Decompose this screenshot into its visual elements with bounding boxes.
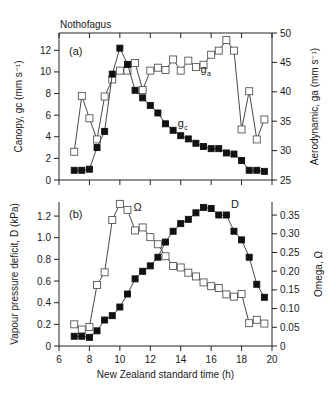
marker-g_a [208, 51, 215, 58]
marker-g_c [79, 167, 85, 173]
marker-Omega [192, 273, 199, 280]
series-label-sub-g_a: a [207, 70, 211, 77]
marker-g_a [101, 93, 108, 100]
marker-Omega [246, 320, 253, 327]
marker-Omega [109, 216, 116, 223]
marker-Omega [200, 279, 207, 286]
series-label-sub-g_c: c [184, 124, 188, 131]
marker-D [216, 212, 222, 218]
marker-Omega [154, 241, 161, 248]
marker-g_c [147, 102, 153, 108]
y-tick-label-right: 0.10 [280, 303, 300, 314]
y-axis-label-right: Omega, Ω [313, 251, 324, 297]
marker-g_c [140, 95, 146, 101]
panel-label: (a) [69, 45, 82, 57]
marker-g_a [253, 136, 260, 143]
marker-g_a [154, 64, 161, 71]
marker-D [124, 291, 130, 297]
marker-Omega [101, 269, 108, 276]
marker-g_a [223, 37, 230, 44]
marker-Omega [94, 282, 101, 289]
marker-g_c [86, 166, 92, 172]
x-tick-label: 12 [145, 354, 157, 365]
marker-Omega [253, 316, 260, 323]
marker-g_c [208, 146, 214, 152]
marker-D [246, 254, 252, 260]
marker-Omega [177, 264, 184, 271]
marker-Omega [124, 206, 131, 213]
marker-Omega [71, 321, 78, 328]
marker-D [178, 221, 184, 227]
marker-g_a [170, 56, 177, 63]
marker-D [193, 210, 199, 216]
marker-g_c [155, 110, 161, 116]
marker-Omega [86, 323, 93, 330]
x-tick-label: 14 [175, 354, 187, 365]
marker-Omega [132, 227, 139, 234]
marker-D [147, 263, 153, 269]
marker-Omega [185, 269, 192, 276]
marker-D [155, 254, 161, 260]
marker-D [132, 276, 138, 282]
marker-D [94, 328, 100, 334]
y-tick-label-left: 4 [45, 131, 51, 142]
y-tick-label-left: 12 [40, 45, 52, 56]
y-axis-label-left: Vapour pressure deficit, D (kPa) [9, 203, 20, 345]
series-label-g_c: g [178, 117, 184, 129]
figure-title: Nothofagus [60, 19, 111, 30]
y-tick-label-left: 0.4 [37, 297, 51, 308]
series-label-Omega: Ω [134, 201, 142, 213]
series-label-D: D [231, 198, 239, 210]
marker-Omega [208, 283, 215, 290]
marker-g_c [132, 87, 138, 93]
marker-g_a [132, 59, 139, 66]
marker-g_c [231, 151, 237, 157]
marker-g_a [185, 57, 192, 64]
marker-Omega [238, 291, 245, 298]
marker-g_a [230, 47, 237, 54]
marker-g_c [193, 140, 199, 146]
marker-D [109, 313, 115, 319]
x-tick-label: 20 [266, 354, 278, 365]
marker-D [79, 333, 85, 339]
marker-g_c [124, 61, 130, 67]
marker-g_c [223, 150, 229, 156]
marker-g_a [246, 88, 253, 95]
y-tick-label-right: 0 [280, 341, 286, 352]
marker-g_c [178, 133, 184, 139]
marker-Omega [230, 293, 237, 300]
marker-g_c [254, 167, 260, 173]
marker-g_c [163, 121, 169, 127]
marker-g_c [216, 146, 222, 152]
y-tick-label-left: 2 [45, 153, 51, 164]
marker-Omega [147, 234, 154, 241]
marker-D [261, 294, 267, 300]
x-tick-label: 6 [56, 354, 62, 365]
marker-D [170, 228, 176, 234]
y-tick-label-left: 0 [45, 341, 51, 352]
marker-g_a [86, 115, 93, 122]
panel-b-vpd-omega: 6810121416182000.20.40.60.81.01.200.050.… [9, 198, 324, 380]
y-tick-label-left: 0 [45, 175, 51, 186]
marker-D [71, 333, 77, 339]
marker-g_c [109, 71, 115, 77]
y-tick-label-left: 0.2 [37, 319, 51, 330]
y-tick-label-right: 35 [280, 116, 292, 127]
marker-g_c [170, 127, 176, 133]
marker-D [201, 204, 207, 210]
marker-g_a [71, 148, 78, 155]
marker-g_a [215, 47, 222, 54]
marker-Omega [139, 224, 146, 231]
y-tick-label-right: 0.35 [280, 210, 300, 221]
panel-label: (b) [69, 208, 82, 220]
marker-g_a [177, 67, 184, 74]
marker-g_c [185, 136, 191, 142]
marker-g_c [102, 128, 108, 134]
marker-D [117, 304, 123, 310]
marker-g_c [239, 158, 245, 164]
y-tick-label-right: 40 [280, 86, 292, 97]
marker-D [223, 212, 229, 218]
marker-g_c [94, 145, 100, 151]
y-axis-label-right: Aerodynamic, ga (mm s⁻¹) [309, 48, 320, 165]
marker-D [208, 205, 214, 211]
